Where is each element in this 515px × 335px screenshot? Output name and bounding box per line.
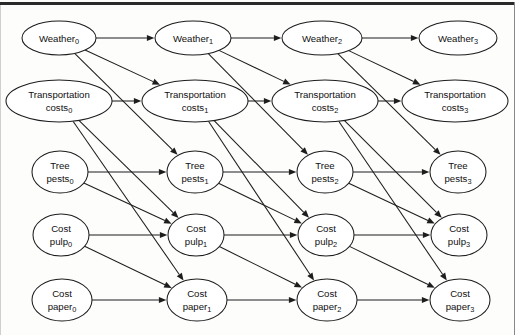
node-subscript: 2 xyxy=(338,37,342,46)
node-pulp3[interactable]: Costpulp3 xyxy=(431,214,487,256)
arrow-head-icon xyxy=(394,98,402,104)
node-paper1[interactable]: Costpaper1 xyxy=(167,279,227,321)
edge-pulp1-to-paper2 xyxy=(219,247,302,288)
edge-pulp2-to-pulp3 xyxy=(354,232,430,238)
arrow-head-icon xyxy=(423,232,431,238)
node-subscript: 1 xyxy=(207,305,211,314)
node-label-line1: Cost xyxy=(317,288,337,299)
node-pests0[interactable]: Treepests0 xyxy=(32,151,88,193)
node-pests2[interactable]: Treepests2 xyxy=(297,151,353,193)
node-label-line1: Cost xyxy=(52,288,72,299)
edge-weather2-to-weather3 xyxy=(362,35,418,41)
node-subscript: 1 xyxy=(204,177,208,186)
node-subscript: 1 xyxy=(209,37,213,46)
arrow-head-icon xyxy=(422,297,430,303)
node-pulp2[interactable]: Costpulp2 xyxy=(298,214,354,256)
node-subscript: 3 xyxy=(467,177,471,186)
edges-layer xyxy=(73,35,447,303)
edge-pulp0-to-paper1 xyxy=(85,246,172,288)
node-subscript: 2 xyxy=(333,240,337,249)
edge-pulp2-to-paper3 xyxy=(350,246,435,287)
node-label-line1: Cost xyxy=(450,288,470,299)
node-label-line1: Transportation xyxy=(294,89,356,100)
node-pests1[interactable]: Treepests1 xyxy=(167,151,223,193)
node-subscript: 3 xyxy=(464,106,468,115)
node-paper0[interactable]: Costpaper0 xyxy=(32,279,92,321)
node-subscript: 2 xyxy=(334,106,338,115)
node-label-line1: Cost xyxy=(316,223,336,234)
arrow-head-icon xyxy=(134,98,142,104)
arrow-head-icon xyxy=(411,35,419,41)
edge-transport0-to-transport1 xyxy=(112,98,141,104)
edge-pulp0-to-pulp1 xyxy=(89,232,167,238)
node-label-line1: Cost xyxy=(51,223,71,234)
node-label-line1: Tree xyxy=(185,160,204,171)
node-weather2[interactable]: Weather2 xyxy=(282,21,362,55)
edge-transport1-to-pulp2 xyxy=(214,121,309,218)
node-subscript: 0 xyxy=(68,106,72,115)
node-label-line1: Cost xyxy=(186,223,206,234)
arrow-head-icon xyxy=(440,273,447,281)
node-paper3[interactable]: Costpaper3 xyxy=(430,279,490,321)
arrow-head-icon xyxy=(290,232,298,238)
arrow-head-icon xyxy=(264,98,272,104)
arrow-head-icon xyxy=(177,273,184,281)
edge-paper0-to-paper1 xyxy=(92,297,166,303)
arrow-head-icon xyxy=(159,169,167,175)
node-subscript: 2 xyxy=(334,177,338,186)
diagram-page: Weather0Weather1Weather2Weather3Transpor… xyxy=(0,0,515,335)
node-label-line1: Tree xyxy=(315,160,334,171)
node-subscript: 0 xyxy=(72,305,76,314)
nodes-layer: Weather0Weather1Weather2Weather3Transpor… xyxy=(6,21,508,321)
node-label-line1: Cost xyxy=(449,223,469,234)
edge-pests0-to-pests1 xyxy=(88,169,166,175)
node-label-line1: Transportation xyxy=(424,89,486,100)
edge-transport0-to-paper1 xyxy=(73,121,184,280)
node-pulp1[interactable]: Costpulp1 xyxy=(168,214,224,256)
edge-pulp1-to-pulp2 xyxy=(224,232,297,238)
node-transport0[interactable]: Transportationcosts0 xyxy=(6,80,112,122)
arrow-head-icon xyxy=(289,297,297,303)
edge-paper2-to-paper3 xyxy=(357,297,429,303)
node-label-line1: Transportation xyxy=(28,89,90,100)
node-pests3[interactable]: Treepests3 xyxy=(430,151,486,193)
node-weather0[interactable]: Weather0 xyxy=(22,21,96,55)
edge-pests1-to-pests2 xyxy=(223,169,296,175)
edge-weather0-to-weather1 xyxy=(96,35,154,41)
node-paper2[interactable]: Costpaper2 xyxy=(297,279,357,321)
node-subscript: 0 xyxy=(69,177,73,186)
arrow-head-icon xyxy=(289,169,297,175)
node-label-line1: Tree xyxy=(448,160,467,171)
arrow-head-icon xyxy=(307,272,314,280)
edge-weather1-to-transport2 xyxy=(219,50,291,84)
node-pulp0[interactable]: Costpulp0 xyxy=(33,214,89,256)
arrow-head-icon xyxy=(159,297,167,303)
node-subscript: 3 xyxy=(466,240,470,249)
node-transport1[interactable]: Transportationcosts1 xyxy=(142,80,248,122)
arrow-head-icon xyxy=(160,232,168,238)
node-subscript: 0 xyxy=(68,240,72,249)
node-label-line1: Transportation xyxy=(164,89,226,100)
edge-transport1-to-transport2 xyxy=(248,98,271,104)
node-subscript: 3 xyxy=(474,37,478,46)
node-transport2[interactable]: Transportationcosts2 xyxy=(272,80,378,122)
edge-pests0-to-pulp1 xyxy=(84,183,172,224)
edge-weather0-to-transport1 xyxy=(85,50,160,85)
node-transport3[interactable]: Transportationcosts3 xyxy=(402,80,508,122)
edge-pests1-to-pulp2 xyxy=(219,183,302,223)
edge-weather1-to-weather2 xyxy=(231,35,281,41)
node-subscript: 0 xyxy=(75,37,79,46)
edge-pests2-to-pests3 xyxy=(353,169,429,175)
node-label-line1: Tree xyxy=(50,160,69,171)
edge-transport2-to-pulp3 xyxy=(345,121,442,218)
bayesian-network-graph: Weather0Weather1Weather2Weather3Transpor… xyxy=(0,0,515,335)
node-weather3[interactable]: Weather3 xyxy=(419,21,497,55)
arrow-head-icon xyxy=(147,35,155,41)
node-subscript: 1 xyxy=(204,106,208,115)
node-subscript: 1 xyxy=(203,240,207,249)
edge-transport2-to-transport3 xyxy=(378,98,401,104)
arrow-head-icon xyxy=(274,35,282,41)
node-subscript: 3 xyxy=(470,305,474,314)
edge-pests2-to-pulp3 xyxy=(349,183,435,223)
node-weather1[interactable]: Weather1 xyxy=(155,21,231,55)
